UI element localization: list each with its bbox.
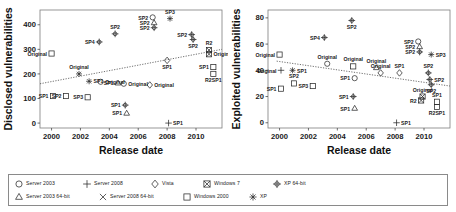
point-label: SP1 (395, 63, 405, 69)
legend-entry-server-2003: Server 2003 (12, 177, 80, 190)
data-point-circleplus (426, 76, 433, 83)
data-point-asterisk (167, 16, 173, 22)
data-point-asterisk (86, 78, 92, 84)
square-glyph (184, 193, 190, 199)
scatter-plot-disclosed: 0100200300400200020022004200620082010Rel… (0, 0, 228, 170)
data-point-plus (393, 120, 400, 127)
plot-frame (268, 10, 450, 128)
data-point-plus (165, 120, 172, 127)
point-label: R2 (410, 98, 417, 104)
data-point-asterisk (290, 67, 296, 73)
data-point-square (211, 64, 216, 69)
point-label: SP1 (39, 93, 49, 99)
legend-row: Server 2003Server 2008VistaWindows 7XP 6… (12, 177, 444, 190)
legend-label: Windows 7 (214, 181, 242, 186)
circleplus-glyph (273, 179, 281, 187)
point-label: SP2 (434, 77, 444, 83)
chart-panel-disclosed: 0100200300400200020022004200620082010Rel… (0, 0, 228, 170)
y-axis-label: Disclosed vulnerabilities (2, 7, 14, 130)
legend-row: Server 2003 64-bitServer 2008 64-bitWind… (12, 190, 444, 203)
cross-glyph (100, 193, 106, 199)
y-tick-label: 20 (256, 92, 264, 101)
legend-label: XP 64-bit (284, 181, 308, 186)
point-label: SP4 (85, 39, 95, 45)
y-tick-label: 0 (32, 119, 36, 128)
legend-label: Server 2003 64-bit (26, 194, 72, 199)
data-point-square (85, 95, 90, 100)
legend-label: Server 2008 (94, 181, 125, 186)
diamond-icon (148, 178, 162, 190)
point-label: SP2 (52, 93, 62, 99)
x-axis-label: Release date (327, 144, 391, 156)
y-tick-label: 100 (23, 94, 36, 103)
triangle-icon (12, 191, 26, 203)
point-label: Original (214, 51, 229, 57)
data-point-triangle (352, 105, 358, 110)
data-point-triangle (417, 44, 423, 49)
point-label: Original (413, 87, 433, 93)
point-label: SP2 (140, 25, 150, 31)
data-point-square (211, 71, 216, 76)
trend-line (40, 49, 222, 83)
plus-icon (80, 178, 94, 190)
data-point-circleplus (321, 34, 328, 41)
data-point-square (277, 52, 282, 57)
x-tick-label: 2006 (130, 132, 147, 141)
data-point-triangle (151, 20, 157, 25)
square-icon (180, 191, 194, 203)
y-tick-label: 400 (23, 20, 36, 29)
point-label: SP1 (112, 110, 122, 116)
x-tick-label: 2006 (358, 132, 375, 141)
data-point-plus (278, 67, 285, 74)
point-label: SP2 (177, 32, 187, 38)
point-label: SP1 (173, 120, 183, 126)
cross-icon (96, 191, 110, 203)
scatter-plot-exploited: 020406080200020022004200620082010Release… (228, 0, 456, 170)
point-label: SP2 (289, 73, 299, 79)
data-point-square (291, 81, 296, 86)
point-label: SP2 (405, 49, 415, 55)
data-point-square (434, 99, 439, 104)
data-point-circle (325, 61, 330, 66)
legend-entry-xp-64-bit: XP 64-bit (270, 177, 336, 190)
data-point-triangle (124, 110, 130, 115)
data-point-square (278, 86, 283, 91)
data-point-diamond (397, 70, 402, 77)
diamond-glyph (152, 180, 159, 188)
data-point-circleplus (188, 31, 195, 38)
data-point-square (63, 93, 68, 98)
point-label: R2SP1 (429, 110, 446, 116)
x-tick-label: 2010 (188, 132, 205, 141)
data-point-asterisk (428, 52, 434, 58)
point-label: SP1 (104, 80, 114, 86)
data-point-circleplus (122, 102, 129, 109)
point-label: Original (257, 68, 277, 74)
point-label: SP2 (188, 43, 198, 49)
data-point-square (49, 51, 54, 56)
y-tick-label: 0 (260, 118, 264, 127)
triangle-glyph (16, 193, 23, 199)
legend-label: XP (260, 194, 269, 199)
x-tick-label: 2004 (101, 132, 119, 141)
circleplus-icon (270, 178, 284, 190)
legend-entry-windows-7: Windows 7 (200, 177, 270, 190)
point-label: R2 (206, 40, 213, 46)
point-label: SP2 (347, 24, 357, 30)
x-tick-label: 2000 (271, 132, 288, 141)
point-label: SP1 (267, 86, 277, 92)
data-point-circleplus (416, 49, 423, 56)
point-label: SP1 (111, 102, 121, 108)
point-label: SP3 (436, 52, 446, 58)
y-tick-label: 200 (23, 70, 36, 79)
data-point-square (351, 64, 356, 69)
data-point-square (310, 83, 315, 88)
point-label: SP2 (423, 63, 433, 69)
point-label: Original (128, 81, 148, 87)
x-tick-label: 2000 (43, 132, 60, 141)
x-tick-label: 2008 (387, 132, 404, 141)
y-tick-label: 60 (256, 40, 264, 49)
point-label: SP3 (298, 83, 308, 89)
figure-root: 0100200300400200020022004200620082010Rel… (0, 0, 456, 212)
point-label: R2SP1 (205, 77, 222, 83)
y-axis-label: Exploited vulnerabilities (230, 8, 242, 129)
